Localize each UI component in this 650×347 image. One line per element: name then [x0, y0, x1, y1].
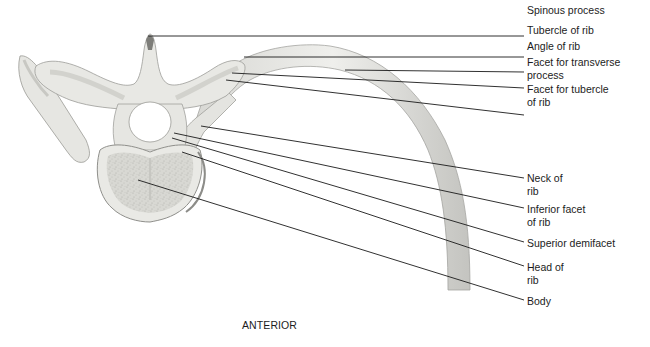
leader-line-head-of-rib: [182, 152, 524, 266]
label-spinous-process: Spinous process: [527, 4, 605, 17]
leader-line-superior-demifacet: [172, 138, 524, 242]
leader-line-inferior-facet-of-rib: [174, 133, 524, 208]
leader-line-neck-of-rib: [201, 126, 524, 178]
view-caption-anterior: ANTERIOR: [242, 319, 297, 331]
label-superior-demifacet: Superior demifacet: [527, 237, 615, 250]
label-facet-for-transverse-process: Facet for transverse process: [527, 56, 620, 81]
label-head-of-rib: Head of rib: [527, 261, 564, 286]
vertebra-rib-diagram: Spinous process Tubercle of rib Angle of…: [0, 0, 650, 347]
vertebral-foramen: [129, 102, 171, 142]
leader-line-facet-for-tubercle-of-rib: [226, 80, 524, 115]
label-angle-of-rib: Angle of rib: [527, 40, 580, 53]
label-neck-of-rib: Neck of rib: [527, 172, 563, 197]
label-body: Body: [527, 295, 551, 308]
label-facet-for-tubercle-of-rib: Facet for tubercle of rib: [527, 83, 609, 108]
label-inferior-facet-of-rib: Inferior facet of rib: [527, 203, 585, 228]
label-tubercle-of-rib: Tubercle of rib: [527, 24, 594, 37]
